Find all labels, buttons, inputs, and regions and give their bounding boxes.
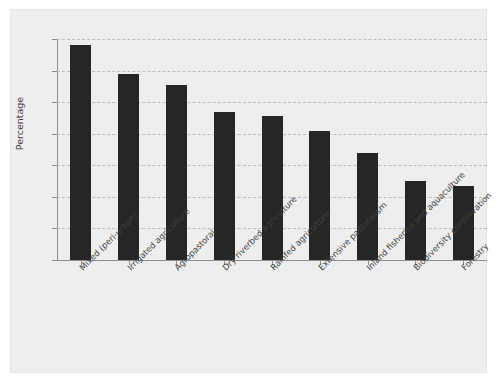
chart-title-cropped	[14, 0, 474, 5]
y-tick-mark	[52, 260, 57, 261]
bar	[70, 45, 91, 260]
y-axis-label: Percentage	[14, 97, 25, 150]
bar-chart-figure: Percentage 01234567 Mixed (peri-urban)Ir…	[0, 0, 498, 383]
bar	[262, 116, 283, 260]
bar	[309, 131, 330, 260]
bar	[214, 112, 235, 260]
